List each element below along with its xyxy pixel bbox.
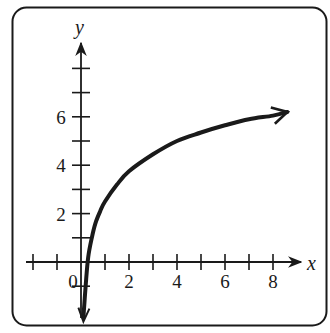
y-axis-label: y bbox=[73, 16, 84, 39]
x-tick-label: 8 bbox=[268, 271, 278, 292]
function-graph: 02468 246 x y bbox=[0, 0, 330, 333]
x-tick-label: 0 bbox=[68, 271, 78, 292]
y-tick-label: 4 bbox=[56, 155, 66, 176]
function-curve bbox=[83, 112, 287, 318]
x-axis-label: x bbox=[306, 252, 316, 274]
y-tick-labels: 246 bbox=[56, 107, 66, 225]
x-tick-label: 6 bbox=[220, 271, 230, 292]
x-tick-label: 2 bbox=[124, 271, 134, 292]
y-tick-label: 2 bbox=[56, 204, 66, 225]
x-tick-label: 4 bbox=[172, 271, 182, 292]
y-tick-label: 6 bbox=[56, 107, 66, 128]
x-tick-labels: 02468 bbox=[68, 271, 278, 292]
